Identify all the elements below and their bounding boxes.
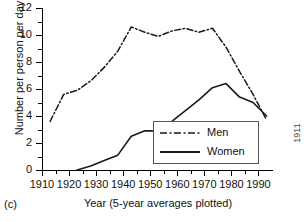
chart-legend: Men Women bbox=[153, 121, 259, 164]
chart-panel-c: Number per person per day 024681012 1910… bbox=[0, 0, 282, 221]
x-axis-label: Year (5-year averages plotted) bbox=[42, 197, 274, 209]
series-line-men bbox=[50, 27, 266, 122]
chart-panel-d-partial: Cigarette consumption 1911 (d) bbox=[282, 0, 305, 221]
legend-label-men: Men bbox=[207, 125, 228, 140]
panel-marker-c: (c) bbox=[4, 198, 17, 210]
legend-swatch-women bbox=[160, 151, 200, 153]
panel-d-y-axis-sublabel: 1911 bbox=[292, 78, 302, 188]
figure-panel-c: Number per person per day 024681012 1910… bbox=[0, 0, 305, 221]
legend-item-women: Women bbox=[160, 143, 258, 161]
legend-swatch-men bbox=[160, 132, 200, 134]
legend-item-men: Men bbox=[160, 124, 258, 142]
chart-curves bbox=[0, 0, 305, 221]
legend-label-women: Women bbox=[207, 144, 245, 159]
